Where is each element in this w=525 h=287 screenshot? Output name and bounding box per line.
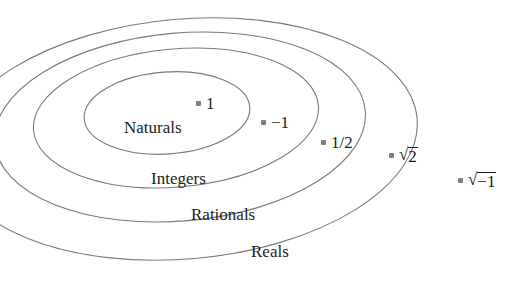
radicand-value: 2 [408, 147, 418, 165]
point-label-square-root-of-two: √ 2 [399, 146, 418, 165]
point-marker-dot [196, 101, 201, 106]
radical-expression: √ 2 [399, 146, 418, 165]
ellipse-reals [0, 0, 428, 279]
point-negative-one: −1 [261, 114, 289, 131]
radical-expression: √ −1 [468, 171, 496, 190]
number-sets-diagram: Naturals Integers Rationals Reals 1 −1 1… [0, 0, 525, 287]
radicand-value: −1 [477, 172, 496, 190]
set-label-naturals: Naturals [124, 119, 182, 136]
set-label-reals: Reals [251, 243, 289, 260]
point-one-half: 1/2 [321, 134, 353, 151]
set-label-rationals: Rationals [191, 206, 255, 223]
point-label-square-root-of-negative-one: √ −1 [468, 171, 496, 190]
radical-sign-icon: √ [468, 171, 477, 188]
point-square-root-of-negative-one: √ −1 [458, 171, 496, 190]
point-label-negative-one: −1 [271, 114, 289, 131]
point-marker-dot [389, 153, 394, 158]
radical-sign-icon: √ [399, 146, 408, 163]
set-label-integers: Integers [151, 170, 206, 187]
point-label-one: 1 [206, 95, 215, 112]
point-marker-dot [458, 178, 463, 183]
ellipse-rationals [0, 17, 373, 237]
point-marker-dot [321, 140, 326, 145]
ellipse-naturals [81, 66, 252, 159]
point-label-one-half: 1/2 [331, 134, 353, 151]
point-square-root-of-two: √ 2 [389, 146, 418, 165]
point-one: 1 [196, 95, 215, 112]
point-marker-dot [261, 120, 266, 125]
